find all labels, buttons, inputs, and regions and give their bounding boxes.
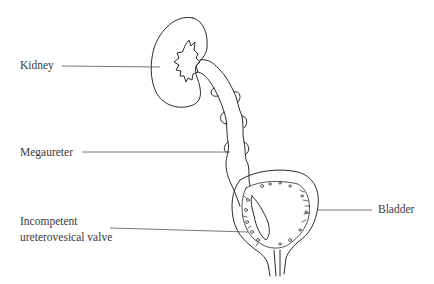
valve-label-line1: Incompetent [20,214,77,229]
kidney-outline [151,17,207,107]
bladder-label: Bladder [378,202,414,217]
bladder-inner-wall [242,181,310,248]
kidney-label: Kidney [20,58,54,73]
megaureter-label: Megaureter [20,145,73,160]
kidney-leader-line [62,66,160,67]
valve-flap [251,196,269,240]
valve-leader-line [110,228,248,232]
valve-label-line2: ureterovesical valve [20,230,112,245]
